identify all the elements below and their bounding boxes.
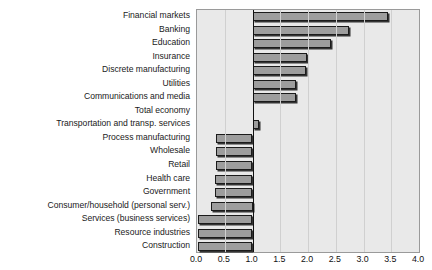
x-tick-label: 3.0 [356, 254, 368, 264]
bar [253, 39, 332, 48]
bar [253, 12, 389, 21]
plot-area [196, 9, 420, 253]
x-tick-label: 2.5 [329, 254, 341, 264]
category-label: Utilities [0, 77, 193, 91]
category-label: Financial markets [0, 9, 193, 23]
baseline-axis [253, 10, 254, 252]
x-tick-label: 2.0 [301, 254, 313, 264]
bar [216, 161, 252, 170]
bar [216, 134, 252, 143]
category-label: Consumer/household (personal serv.) [0, 199, 193, 213]
category-label: Retail [0, 158, 193, 172]
x-axis: 0.00.51.01.52.02.53.03.54.0 [196, 254, 420, 268]
x-tick-label: 0.5 [218, 254, 230, 264]
category-label: Discrete manufacturing [0, 63, 193, 77]
gridline [336, 10, 337, 252]
category-label: Government [0, 185, 193, 199]
category-label: Banking [0, 23, 193, 37]
gridline [280, 10, 281, 252]
category-label: Education [0, 36, 193, 50]
horizontal-bar-chart: Financial marketsBankingEducationInsuran… [0, 0, 432, 270]
bar [253, 80, 296, 89]
x-tick-label: 3.5 [384, 254, 396, 264]
gridline [225, 10, 226, 252]
gridline [364, 10, 365, 252]
gridline [308, 10, 309, 252]
category-label: Total economy [0, 104, 193, 118]
x-tick-label: 1.0 [245, 254, 257, 264]
category-label: Health care [0, 172, 193, 186]
x-tick-label: 1.5 [273, 254, 285, 264]
category-label: Process manufacturing [0, 131, 193, 145]
bar [216, 147, 252, 156]
x-tick-label: 0.0 [190, 254, 202, 264]
category-label: Services (business services) [0, 212, 193, 226]
x-tick-label: 4.0 [412, 254, 424, 264]
category-label: Construction [0, 239, 193, 253]
bar [215, 188, 253, 197]
bar [211, 202, 253, 211]
bar [215, 175, 252, 184]
category-label: Communications and media [0, 90, 193, 104]
gridline [391, 10, 392, 252]
bar [253, 93, 296, 102]
category-label-column: Financial marketsBankingEducationInsuran… [0, 9, 193, 253]
category-label: Transportation and transp. services [0, 117, 193, 131]
category-label: Wholesale [0, 144, 193, 158]
bar [253, 26, 349, 35]
category-label: Resource industries [0, 226, 193, 240]
category-label: Insurance [0, 50, 193, 64]
